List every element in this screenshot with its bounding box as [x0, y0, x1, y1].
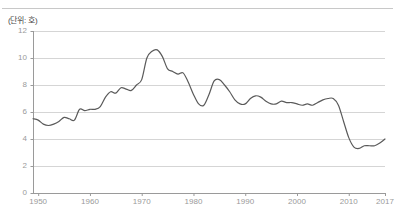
x-tick-label: 2000 [277, 198, 317, 206]
x-tick-label: 1970 [122, 198, 162, 206]
data-series-line [33, 50, 385, 149]
x-tick-label: 1950 [18, 198, 58, 206]
x-tick-label: 1990 [225, 198, 265, 206]
gridline-group [33, 32, 385, 194]
y-tick-label: 0 [5, 189, 27, 197]
tick-mark-group [31, 32, 386, 197]
y-tick-label: 8 [5, 81, 27, 89]
y-tick-label: 12 [5, 27, 27, 35]
y-tick-label: 6 [5, 108, 27, 116]
chart-figure: (단위: 호) 024681012 1950196019701980199020… [0, 0, 395, 221]
x-tick-label: 1960 [70, 198, 110, 206]
line-chart-plot [0, 0, 395, 221]
x-tick-label: 1980 [173, 198, 213, 206]
y-tick-label: 10 [5, 54, 27, 62]
y-tick-label: 4 [5, 135, 27, 143]
x-tick-label: 2017 [365, 198, 395, 206]
y-tick-label: 2 [5, 162, 27, 170]
x-tick-label: 2010 [329, 198, 369, 206]
